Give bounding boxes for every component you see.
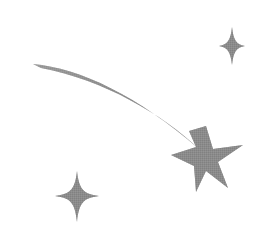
sparkle-bottom-left-texture: [0, 0, 276, 236]
shooting-star-illustration: Grayscale shooting star clipart with a t…: [0, 0, 276, 236]
sparkle-bottom-left: [0, 0, 276, 236]
artwork-canvas: Shooting Star Grayscale shooting star cl…: [0, 0, 276, 236]
